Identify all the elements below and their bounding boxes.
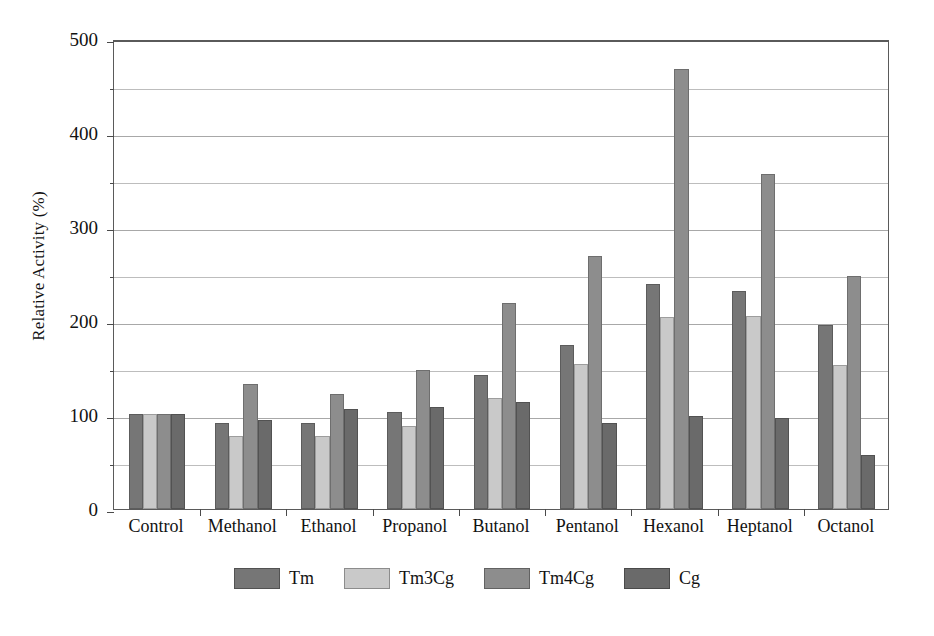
bar [344, 409, 358, 509]
bar [818, 325, 832, 509]
y-axis-tick-major [107, 418, 114, 419]
bar [416, 370, 430, 509]
bar [215, 423, 229, 509]
legend-item-cg[interactable]: Cg [624, 568, 700, 589]
chart-legend: TmTm3CgTm4CgCg [0, 568, 934, 589]
y-axis-title: Relative Activity (%) [29, 156, 49, 376]
x-axis-tick [459, 509, 460, 516]
bar-chart-figure: Relative Activity (%) 0100200300400500 C… [0, 0, 934, 636]
legend-swatch-icon [624, 568, 670, 589]
legend-label: Tm3Cg [399, 568, 454, 589]
legend-item-tm3cg[interactable]: Tm3Cg [344, 568, 454, 589]
y-axis-tick-label: 300 [38, 218, 98, 237]
legend-swatch-icon [344, 568, 390, 589]
bar [847, 276, 861, 509]
y-axis-tick-major [107, 324, 114, 325]
bar [301, 423, 315, 509]
legend-label: Tm [289, 568, 314, 589]
bar [143, 414, 157, 509]
y-axis-tick-label: 100 [38, 406, 98, 425]
bar [474, 375, 488, 509]
y-axis-tick-major [107, 230, 114, 231]
y-axis-tick-label: 200 [38, 312, 98, 331]
bar [674, 69, 688, 509]
x-axis-tick [718, 509, 719, 516]
bar [430, 407, 444, 509]
y-axis-tick-label: 0 [38, 500, 98, 519]
bar-group [301, 42, 358, 509]
bar-group [474, 42, 531, 509]
bar-group [215, 42, 272, 509]
bar [387, 412, 401, 509]
bar [761, 174, 775, 509]
x-axis-tick [200, 509, 201, 516]
x-axis-tick [545, 509, 546, 516]
bar [574, 364, 588, 509]
y-axis-tick-major [107, 42, 114, 43]
y-axis-tick-label: 400 [38, 124, 98, 143]
bar [732, 291, 746, 509]
x-axis-category-labels: ControlMethanolEthanolPropanolButanolPen… [113, 516, 889, 546]
plot-area [113, 40, 889, 510]
bar [689, 416, 703, 509]
bar [315, 436, 329, 509]
bar [588, 256, 602, 509]
y-axis-tick-major [107, 136, 114, 137]
legend-item-tm4cg[interactable]: Tm4Cg [484, 568, 594, 589]
bar [602, 423, 616, 509]
bar [560, 345, 574, 509]
y-axis-tick-label: 500 [38, 30, 98, 49]
bar-group [646, 42, 703, 509]
x-axis-tick [631, 509, 632, 516]
bar [746, 316, 760, 509]
bar [243, 384, 257, 509]
bar [516, 402, 530, 509]
bar [258, 420, 272, 509]
legend-swatch-icon [234, 568, 280, 589]
bar [833, 365, 847, 509]
bar [330, 394, 344, 509]
bar [129, 414, 143, 509]
bar [660, 317, 674, 509]
bar-group [387, 42, 444, 509]
bar [775, 418, 789, 509]
bar-group [818, 42, 875, 509]
bars-layer [114, 42, 888, 509]
x-axis-tick [286, 509, 287, 516]
legend-label: Tm4Cg [539, 568, 594, 589]
y-axis-tick-major [107, 512, 114, 513]
bar-group [129, 42, 186, 509]
bar [402, 426, 416, 509]
x-axis-tick [804, 509, 805, 516]
bar [488, 398, 502, 509]
bar [157, 414, 171, 509]
legend-label: Cg [679, 568, 700, 589]
bar [646, 284, 660, 509]
x-axis-tick [373, 509, 374, 516]
legend-swatch-icon [484, 568, 530, 589]
legend-item-tm[interactable]: Tm [234, 568, 314, 589]
bar [502, 303, 516, 509]
bar [171, 414, 185, 509]
x-axis-label-octanol: Octanol [786, 516, 906, 537]
bar-group [560, 42, 617, 509]
bar [229, 436, 243, 509]
bar [861, 455, 875, 509]
bar-group [732, 42, 789, 509]
